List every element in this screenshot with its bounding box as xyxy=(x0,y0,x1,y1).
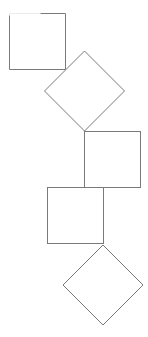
square-2 xyxy=(85,132,141,188)
diamond-1 xyxy=(45,51,125,131)
square-1 xyxy=(10,14,66,70)
diagram-canvas xyxy=(0,0,148,337)
shapes-layer xyxy=(10,14,144,326)
square-3 xyxy=(48,188,104,244)
diamond-2 xyxy=(63,245,143,325)
